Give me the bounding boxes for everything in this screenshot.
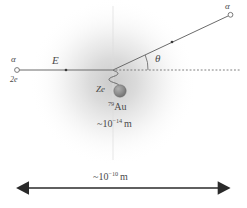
nucleus-size-label: ~10−14m (97, 119, 132, 129)
scattered-alpha-open-circle (228, 12, 233, 17)
atom-size-exponent: −10 (108, 170, 118, 177)
incoming-alpha-label: α (11, 55, 16, 64)
nucleus-size-prefix: ~10 (97, 118, 112, 129)
incoming-alpha-open-circle (15, 68, 20, 73)
atom-size-prefix: ~10 (93, 171, 108, 182)
scattered-ray-marker-dot (171, 41, 174, 44)
gold-nucleus (114, 85, 126, 97)
atom-size-unit: m (118, 171, 128, 182)
nucleus-element-symbol: Au (114, 101, 126, 112)
incident-energy-label: E (52, 55, 59, 66)
incoming-ray-marker-dot (65, 69, 68, 72)
nucleus-element-label: 79Au (108, 102, 126, 112)
atom-size-label: ~10−10m (93, 172, 128, 182)
incoming-charge-label: 2e (10, 76, 18, 84)
nucleus-size-unit: m (122, 118, 132, 129)
nucleus-charge-label: Ze (96, 85, 105, 94)
nucleus-size-exponent: −14 (112, 117, 122, 124)
scattering-angle-label: θ (155, 53, 160, 64)
scattered-alpha-label: α (225, 2, 230, 11)
scattering-diagram: α 2e E α θ Ze 79Au ~10−14m ~10−10m (0, 0, 247, 208)
